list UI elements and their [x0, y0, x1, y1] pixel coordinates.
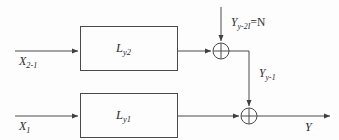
block-top-label-sub: y2	[123, 47, 131, 57]
noise-input-label-eq: =N	[250, 16, 265, 28]
output-label-main: Y	[305, 120, 312, 134]
wire-intermediate	[229, 51, 249, 106]
input-top-label-sub: 2-1	[26, 61, 37, 70]
input-bottom-label: X1	[19, 120, 31, 135]
intermediate-signal-label-sub: y-1	[265, 73, 275, 82]
input-bottom-label-sub: 1	[26, 126, 30, 135]
output-label: Y	[305, 121, 312, 133]
input-top-label: X2-1	[19, 55, 38, 70]
block-bottom-label-main: L	[116, 108, 123, 122]
intermediate-signal-label: Yy-1	[259, 68, 276, 81]
block-top-label-main: L	[116, 41, 123, 55]
block-diagram: Ly2 Ly1 X2-1 X1 Yy-2I=N Yy-1 Y	[0, 0, 339, 140]
diagram-canvas	[0, 0, 339, 140]
block-bottom-label: Ly1	[116, 109, 131, 123]
block-top-label: Ly2	[116, 42, 131, 56]
noise-input-label-sub: y-2I	[237, 22, 250, 31]
block-bottom-label-sub: y1	[123, 114, 131, 124]
noise-input-label: Yy-2I=N	[231, 17, 265, 30]
